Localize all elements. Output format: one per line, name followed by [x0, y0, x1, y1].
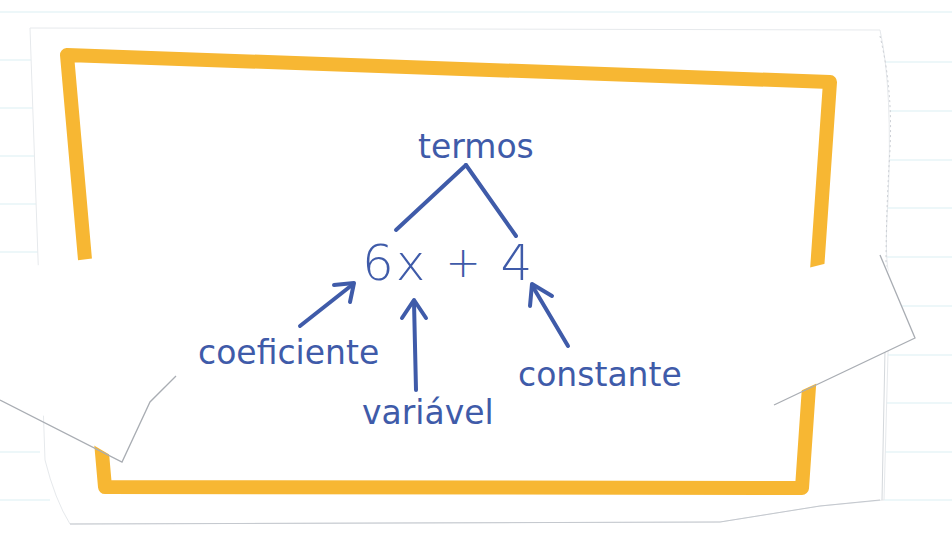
coefficient-arrow [300, 285, 352, 326]
termos-branch-right [466, 165, 516, 236]
variable-label: variável [362, 396, 494, 429]
variable-value: x [396, 238, 426, 288]
variable-arrow [414, 302, 416, 390]
constant-label: constante [518, 358, 682, 391]
plus-operator: + [445, 242, 480, 284]
algebraic-expression: 6x+4 [362, 238, 532, 288]
constant-value: 4 [501, 238, 533, 288]
terms-label: termos [418, 130, 534, 163]
coefficient-label: coeficiente [198, 336, 379, 369]
coefficient-value: 6 [362, 238, 394, 288]
termos-branch-left [396, 165, 466, 230]
diagram-canvas: termos 6x+4 coeficiente variável constan… [0, 0, 952, 534]
